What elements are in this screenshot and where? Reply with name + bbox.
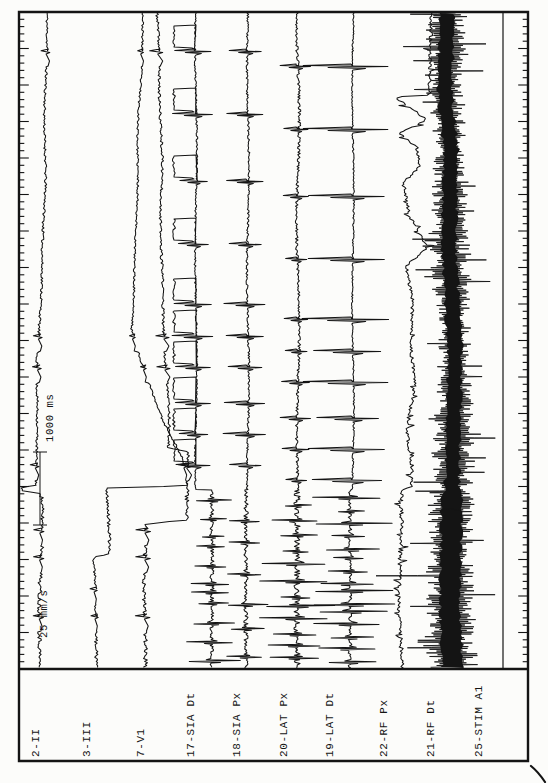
trace-22-RF-Px	[394, 13, 435, 668]
trace-18-SIA-Px	[223, 13, 268, 668]
channel-label: 25-STIM A1	[473, 685, 485, 757]
channel-label: 22-RF Px	[378, 699, 390, 757]
channel-label: 18-SIA Px	[231, 692, 243, 757]
trace-21-RF-Dt	[376, 13, 495, 667]
scanned-page: 1000 ms25 mm/s2-II3-III7-V117-SIA Dt18-S…	[0, 0, 548, 783]
channel-label: 21-RF Dt	[425, 699, 437, 757]
time-scale-label: 1000 ms	[44, 394, 56, 442]
channel-label: 7-V1	[135, 728, 147, 757]
channel-label: 19-LAT Dt	[324, 692, 336, 757]
trace-19-LAT-Dt	[302, 13, 395, 668]
channel-label: 3-III	[81, 721, 93, 757]
trace-20-LAT-Px	[260, 13, 335, 668]
trace-7-V1	[135, 13, 191, 667]
trace-17-SIA-Dt	[172, 13, 240, 667]
ep-recording-plot: 1000 ms25 mm/s2-II3-III7-V117-SIA Dt18-S…	[0, 0, 548, 783]
scan-artifact-mark	[531, 766, 545, 782]
channel-label: 20-LAT Px	[278, 692, 290, 757]
channel-label: 17-SIA Dt	[185, 692, 197, 757]
channel-label: 2-II	[30, 728, 42, 757]
trace-3-III	[90, 13, 188, 667]
